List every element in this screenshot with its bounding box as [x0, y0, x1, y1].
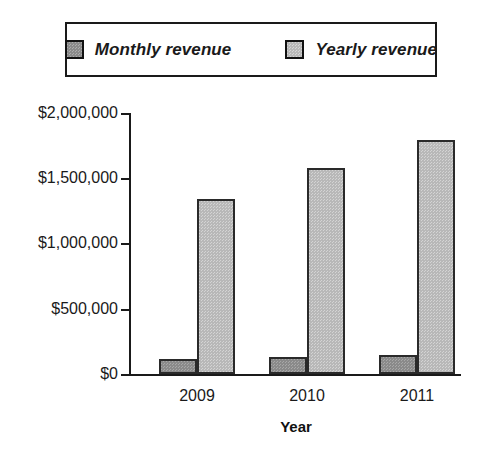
- bar-monthly-2011: [379, 355, 417, 374]
- legend-entry-yearly: Yearly revenue: [285, 40, 437, 60]
- y-tick-mark-1500000: [121, 178, 129, 180]
- legend-entry-monthly: Monthly revenue: [65, 40, 232, 60]
- plot-area: $2,000,000 $1,500,000 $1,000,000 $500,00…: [131, 113, 461, 374]
- bar-group-2011: [379, 113, 455, 374]
- x-tick-label-2009: 2009: [137, 387, 257, 405]
- legend-swatch-monthly-icon: [65, 40, 84, 59]
- y-tick-label-2000000: $2,000,000: [38, 104, 118, 122]
- y-tick-mark-1000000: [121, 243, 129, 245]
- y-tick-mark-2000000: [121, 113, 129, 115]
- y-tick-label-1500000: $1,500,000: [38, 169, 118, 187]
- x-axis-title: Year: [131, 418, 461, 435]
- x-tick-label-2011: 2011: [357, 387, 477, 405]
- x-tick-label-2010: 2010: [247, 387, 367, 405]
- y-tick-mark-500000: [121, 309, 129, 311]
- y-tick-mark-0: [121, 374, 129, 376]
- bar-yearly-2011: [417, 140, 455, 374]
- legend-label-monthly: Monthly revenue: [95, 40, 232, 60]
- legend-swatch-yearly-icon: [285, 40, 304, 59]
- bar-yearly-2009: [197, 199, 235, 374]
- bar-monthly-2010: [269, 357, 307, 374]
- x-axis-line: [129, 374, 461, 376]
- bar-group-2009: [159, 113, 235, 374]
- y-tick-label-500000: $500,000: [51, 300, 118, 318]
- legend-label-yearly: Yearly revenue: [315, 40, 437, 60]
- y-axis-line: [129, 113, 131, 374]
- bar-yearly-2010: [307, 168, 345, 374]
- y-tick-label-0: $0: [100, 365, 118, 383]
- bar-group-2010: [269, 113, 345, 374]
- y-tick-label-1000000: $1,000,000: [38, 234, 118, 252]
- bar-monthly-2009: [159, 359, 197, 374]
- revenue-bar-chart: Monthly revenue Yearly revenue $2,000,00…: [0, 0, 496, 459]
- chart-legend: Monthly revenue Yearly revenue: [65, 22, 437, 77]
